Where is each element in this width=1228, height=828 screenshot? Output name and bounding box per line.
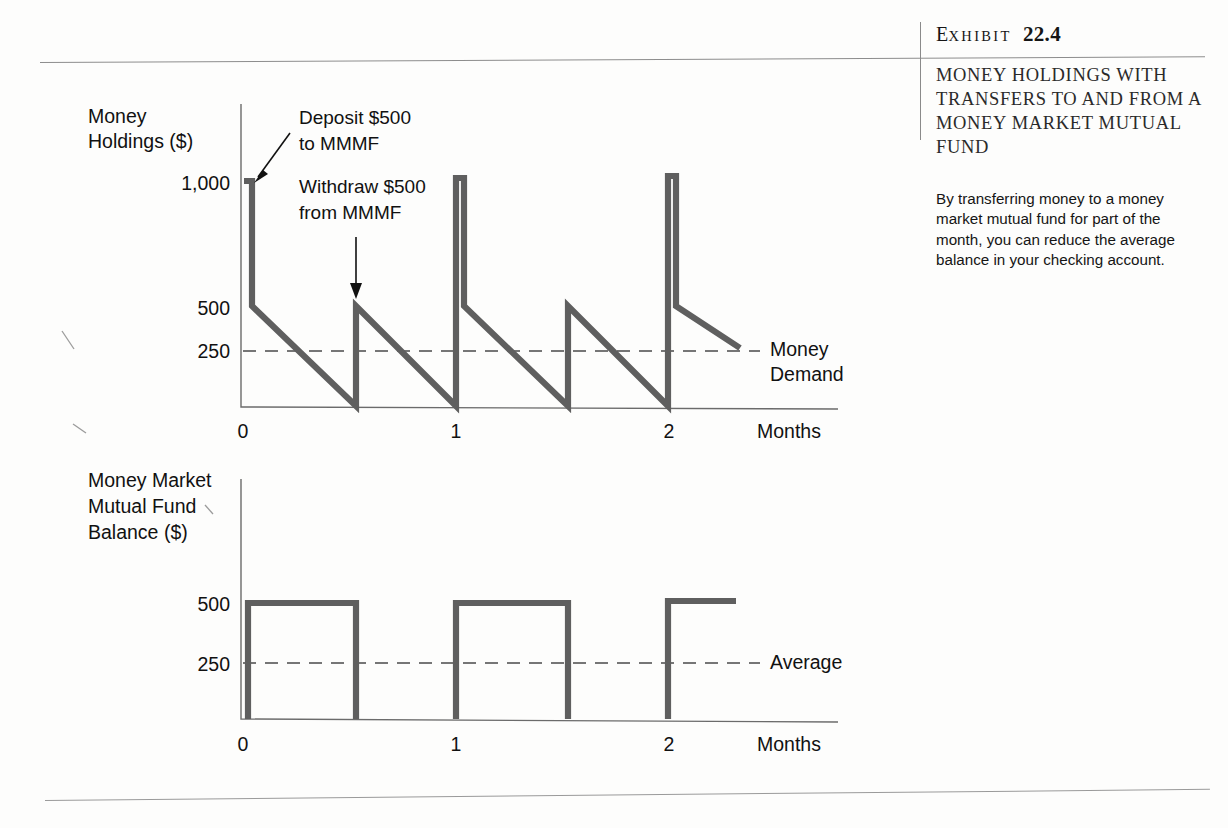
exhibit-page: EXHIBIT 22.4 MONEY HOLDINGS WITH TRANSFE… — [0, 0, 1228, 828]
chart2-series-path — [248, 601, 736, 719]
chart2-ytick-500: 500 — [197, 593, 230, 615]
exhibit-title: MONEY HOLDINGS WITH TRANSFERS TO AND FRO… — [936, 63, 1204, 159]
exhibit-word-initial: E — [936, 23, 949, 45]
chart2-y-axis-title-line1: Money Market — [88, 469, 212, 491]
exhibit-heading: EXHIBIT 22.4 — [936, 22, 1204, 47]
exhibit-word: EXHIBIT — [936, 23, 1012, 45]
sidebar-vertical-rule — [920, 22, 921, 140]
chart2-xtick-2: 2 — [664, 733, 675, 755]
mmmf-balance-chart: Money Market Mutual Fund Balance ($) 500… — [0, 0, 900, 828]
exhibit-sidebar: EXHIBIT 22.4 MONEY HOLDINGS WITH TRANSFE… — [936, 22, 1204, 270]
exhibit-caption: By transferring money to a money market … — [936, 189, 1188, 270]
chart2-y-axis-title-line3: Balance ($) — [88, 521, 188, 543]
chart2-y-axis-title-line2: Mutual Fund — [88, 495, 196, 517]
chart2-x-axis-title: Months — [757, 733, 821, 755]
exhibit-number: 22.4 — [1023, 22, 1061, 46]
chart2-xtick-0: 0 — [238, 733, 249, 755]
exhibit-word-rest: XHIBIT — [949, 28, 1012, 44]
chart2-xtick-1: 1 — [451, 733, 462, 755]
chart2-average-label: Average — [770, 651, 842, 673]
chart2-ytick-250: 250 — [197, 653, 230, 675]
